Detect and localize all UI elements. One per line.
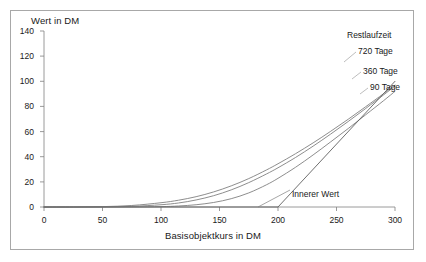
legend-item-360-tage: 360 Tage xyxy=(363,66,398,76)
legend-title: Restlaufzeit xyxy=(347,30,391,40)
chart-figure: Wert in DM Basisobjektkurs in DM 140 120… xyxy=(0,0,426,262)
x-tick-label-0: 0 xyxy=(29,215,59,225)
x-tick-label-100: 100 xyxy=(146,215,176,225)
y-tick-label-100: 100 xyxy=(8,76,34,86)
y-tick-label-140: 140 xyxy=(8,26,34,36)
innerer-wert-leader xyxy=(258,190,290,207)
y-tick-label-0: 0 xyxy=(8,202,34,212)
x-tick-label-200: 200 xyxy=(263,215,293,225)
y-tick-label-20: 20 xyxy=(8,177,34,187)
series-innerer-wert xyxy=(44,81,395,207)
x-axis-title: Basisobjektkurs in DM xyxy=(0,230,426,241)
chart-curves xyxy=(44,81,395,207)
series-360-tage xyxy=(44,86,395,207)
series-720-tage xyxy=(44,85,395,207)
x-tick-label-250: 250 xyxy=(322,215,352,225)
y-tick-label-40: 40 xyxy=(8,152,34,162)
y-tick-label-120: 120 xyxy=(8,51,34,61)
x-axis-ticks xyxy=(44,207,395,211)
y-tick-label-80: 80 xyxy=(8,101,34,111)
y-axis-title: Wert in DM xyxy=(31,15,79,26)
x-tick-label-50: 50 xyxy=(88,215,118,225)
legend-item-90-tage: 90 Tage xyxy=(370,82,400,92)
y-axis-ticks xyxy=(40,31,44,207)
x-tick-label-150: 150 xyxy=(205,215,235,225)
legend-item-720-tage: 720 Tage xyxy=(358,46,393,56)
x-tick-label-300: 300 xyxy=(380,215,410,225)
y-tick-label-60: 60 xyxy=(8,127,34,137)
annotation-innerer-wert: Innerer Wert xyxy=(292,189,339,199)
